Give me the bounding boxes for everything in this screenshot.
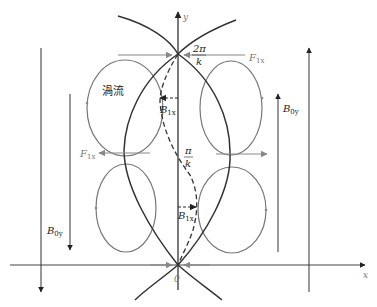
f1x-top-label: F1x (248, 52, 264, 65)
eddy-current-label: 渦流 (102, 84, 124, 98)
eddy-loop-upper-right (200, 61, 262, 155)
b1x-lower-label: B1x (177, 210, 194, 223)
field-curve-left (118, 16, 178, 300)
y-axis-label: y (182, 12, 189, 22)
origin-label: 0 (174, 274, 180, 284)
eddy-loop-lower-left (96, 164, 156, 252)
two-pi-denominator: k (196, 56, 202, 67)
diagram-canvas: y x 0 2π k π k 渦流 F1x F1x B1x B1x B0y B0… (0, 0, 377, 307)
x-axis-label: x (363, 270, 368, 280)
pi-denominator: k (185, 158, 191, 169)
b0y-right-label: B0y (282, 103, 299, 116)
eddy-loop-lower-right (198, 167, 266, 253)
pi-numerator: π (184, 145, 192, 156)
b0y-left-label: B0y (46, 225, 63, 238)
two-pi-numerator: 2π (192, 43, 206, 54)
f1x-mid-label: F1x (79, 148, 95, 161)
